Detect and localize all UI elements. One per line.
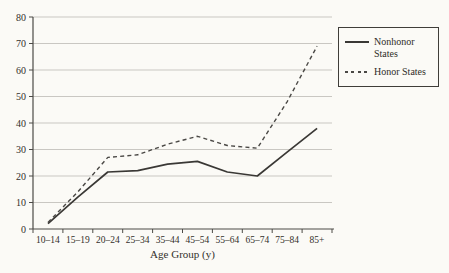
- y-tick-label: 0: [21, 224, 26, 235]
- dashed-line-sample-icon: [345, 71, 369, 73]
- solid-line-sample-icon: [345, 41, 369, 43]
- legend-label-honor-states: Honor States: [374, 66, 426, 78]
- y-tick-label: 60: [16, 65, 26, 76]
- legend-label-nonhonor-states: Nonhonor States: [374, 36, 436, 60]
- x-tick-label: 35–44: [156, 235, 180, 245]
- x-tick-label: 25–34: [126, 235, 150, 245]
- legend-item-nonhonor-states: Nonhonor States: [345, 36, 436, 60]
- y-tick-label: 70: [16, 38, 26, 49]
- legend: Nonhonor States Honor States: [338, 27, 439, 87]
- x-tick-label: 15–19: [66, 235, 90, 245]
- y-tick-label: 40: [16, 118, 26, 129]
- x-tick-label: 55–64: [215, 235, 239, 245]
- x-tick-label: 20–24: [96, 235, 120, 245]
- y-tick-label: 30: [16, 144, 26, 155]
- legend-item-honor-states: Honor States: [345, 66, 436, 78]
- x-tick-label: 75–84: [275, 235, 299, 245]
- x-tick-label: 10–14: [36, 235, 60, 245]
- y-tick-label: 50: [16, 91, 26, 102]
- line-chart-figure: 0102030405060708010–1415–1920–2425–3435–…: [0, 0, 449, 273]
- y-tick-label: 10: [16, 197, 26, 208]
- y-tick-label: 20: [16, 171, 26, 182]
- honor-states-line: [48, 46, 317, 222]
- x-tick-label: 65–74: [245, 235, 269, 245]
- x-tick-label: 85+: [310, 235, 325, 245]
- x-tick-label: 45–54: [186, 235, 210, 245]
- x-axis-title: Age Group (y): [150, 248, 215, 261]
- y-tick-label: 80: [16, 12, 26, 23]
